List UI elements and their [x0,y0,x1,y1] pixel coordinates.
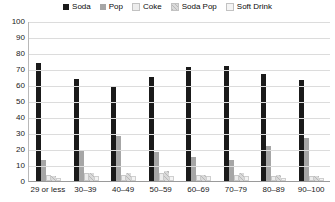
bar-soft-drink[interactable] [244,176,249,181]
legend-label: Coke [143,2,162,11]
y-axis-tick-label: 60 [16,82,25,90]
legend-label: Soda Pop [182,2,217,11]
chart-legend: SodaPopCokeSoda PopSoft Drink [0,2,335,11]
legend-item-pop[interactable]: Pop [100,2,123,11]
x-axis-label: 90–100 [292,185,330,194]
y-axis-tick-label: 0 [21,178,25,186]
legend-item-coke[interactable]: Coke [132,2,162,11]
y-axis-tick-label: 50 [16,98,25,106]
x-axis-label: 40–49 [104,185,142,194]
legend-label: Pop [109,2,123,11]
legend-swatch-icon [63,4,69,10]
y-axis-tick-label: 40 [16,114,25,122]
legend-swatch-icon [226,3,234,11]
gridline [29,134,330,135]
gridline [29,54,330,55]
gridline [29,70,330,71]
legend-swatch-icon [100,4,106,10]
x-axis-label: 80–89 [255,185,293,194]
bar-soft-drink[interactable] [319,178,324,181]
bar-soft-drink[interactable] [94,176,99,181]
y-axis-tick-label: 20 [16,146,25,154]
bar-pop[interactable] [304,138,309,181]
gridline [29,182,330,183]
legend-item-soda-pop[interactable]: Soda Pop [171,2,217,11]
gridline [29,166,330,167]
legend-item-soda[interactable]: Soda [63,2,91,11]
x-axis-labels: 29 or less30–3940–4950–5960–6970–7980–89… [29,185,330,194]
bar-soft-drink[interactable] [281,178,286,181]
gridline [29,102,330,103]
gridline [29,38,330,39]
bar-chart: SodaPopCokeSoda PopSoft Drink 1009080706… [0,0,335,202]
y-axis-tick-label: 100 [12,18,25,26]
gridline [29,118,330,119]
gridline [29,150,330,151]
legend-label: Soft Drink [237,2,272,11]
legend-swatch-icon [132,3,140,11]
y-axis-tick-label: 80 [16,50,25,58]
legend-label: Soda [72,2,91,11]
y-axis-tick-label: 90 [16,34,25,42]
gridline [29,22,330,23]
y-axis-tick-label: 30 [16,130,25,138]
x-axis-label: 70–79 [217,185,255,194]
bar-soft-drink[interactable] [169,176,174,181]
y-axis-tick-label: 70 [16,66,25,74]
bar-soft-drink[interactable] [131,176,136,181]
y-axis-tick-label: 10 [16,162,25,170]
legend-item-soft-drink[interactable]: Soft Drink [226,2,272,11]
gridline [29,86,330,87]
x-axis-label: 60–69 [180,185,218,194]
legend-swatch-icon [171,3,179,11]
bar-soft-drink[interactable] [56,178,61,181]
x-axis-label: 30–39 [67,185,105,194]
x-axis-label: 50–59 [142,185,180,194]
plot-area: 1009080706050403020100 [28,22,330,182]
bar-soft-drink[interactable] [206,176,211,181]
x-axis-label: 29 or less [29,185,67,194]
